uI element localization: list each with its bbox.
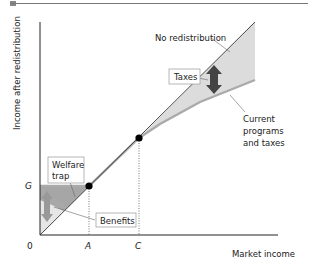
no-redistribution-line: [40, 22, 255, 235]
x-axis-label: Market income: [232, 249, 295, 259]
x-tick-c: C: [135, 241, 142, 251]
current-label-2: programs: [243, 126, 284, 136]
welfare-trap-label-1: Welfare: [52, 160, 84, 170]
current-label-1: Current: [243, 114, 276, 124]
welfare-trap-label-2: trap: [52, 171, 69, 181]
point-c: [135, 134, 142, 141]
leader-current: [230, 95, 245, 112]
benefits-label: Benefits: [100, 216, 135, 226]
taxes-label: Taxes: [173, 72, 198, 82]
no-redistribution-label: No redistribution: [155, 33, 226, 43]
y-tick-g: G: [25, 181, 32, 191]
origin-label: 0: [27, 241, 33, 251]
y-axis-label: Income after redistribution: [12, 16, 22, 130]
redistribution-diagram: Taxes Welfare trap Benefits No redistrib…: [0, 0, 309, 269]
point-a: [85, 182, 92, 189]
x-tick-a: A: [84, 241, 91, 251]
current-label-3: and taxes: [243, 138, 285, 148]
